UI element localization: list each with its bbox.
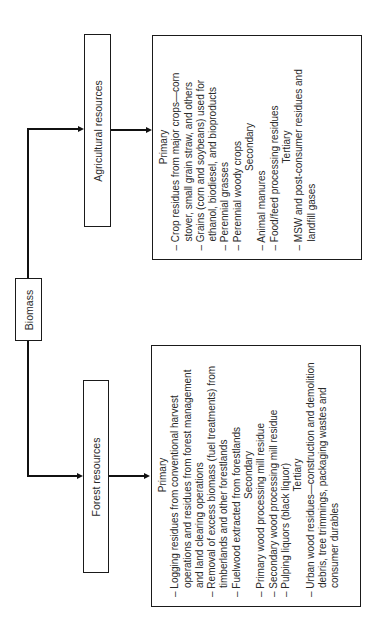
agri-primary-heading: Primary <box>158 43 170 250</box>
forest-tertiary-item: Urban wood residues—construction and dem… <box>305 353 342 597</box>
agri-tertiary-heading: Tertiary <box>281 43 293 250</box>
forest-primary-item: Removal of excess biomass (fuel treatmen… <box>206 353 231 597</box>
forest-primary-heading: Primary <box>157 353 169 597</box>
forest-tertiary-heading: Tertiary <box>292 353 304 597</box>
agri-primary-item: Perennial grasses <box>219 43 231 250</box>
forest-primary-item: Logging residues from conventional harve… <box>169 353 206 597</box>
agri-secondary-heading: Secondary <box>244 43 256 250</box>
forest-resources-node: Forest resources <box>83 380 109 573</box>
trunk-line-up <box>27 128 29 278</box>
forest-details-box: Primary Logging residues from convention… <box>151 345 361 607</box>
forest-primary-item: Fuelwood extracted from forestlands <box>231 353 243 597</box>
forest-detail-line <box>109 475 145 477</box>
forest-resources-label: Forest resources <box>90 437 102 516</box>
forest-secondary-heading: Secondary <box>243 353 255 597</box>
agri-branch-line <box>27 128 79 130</box>
forest-detail-arrow-icon <box>144 473 150 479</box>
forest-details-content: Primary Logging residues from convention… <box>151 345 361 607</box>
agri-secondary-item: Animal manures <box>256 43 268 250</box>
agricultural-details-box: Primary Crop residues from major crops—c… <box>152 35 362 260</box>
agri-tertiary-item: MSW and post-consumer residues and landf… <box>293 43 318 250</box>
agri-secondary-item: Food/feed processing residues <box>269 43 281 250</box>
agri-primary-item: Crop residues from major crops—corn stov… <box>170 43 195 250</box>
forest-secondary-item: Primary wood processing mill residue <box>255 353 267 597</box>
forest-secondary-item: Secondary wood processing mill residue <box>268 353 280 597</box>
forest-branch-line <box>27 475 78 477</box>
forest-secondary-item: Pulping liquors (black liquor) <box>280 353 292 597</box>
agricultural-resources-node: Agricultural resources <box>84 34 111 227</box>
trunk-line-down <box>27 341 29 477</box>
agricultural-resources-label: Agricultural resources <box>92 80 104 182</box>
agri-primary-item: Grains (corn and soybeans) used for etha… <box>195 43 220 250</box>
biomass-node: Biomass <box>15 278 42 341</box>
agri-primary-item: Perennial woody crops <box>232 43 244 250</box>
agricultural-details-content: Primary Crop residues from major crops—c… <box>152 35 362 260</box>
agri-detail-line <box>111 129 147 131</box>
biomass-label: Biomass <box>23 289 35 329</box>
